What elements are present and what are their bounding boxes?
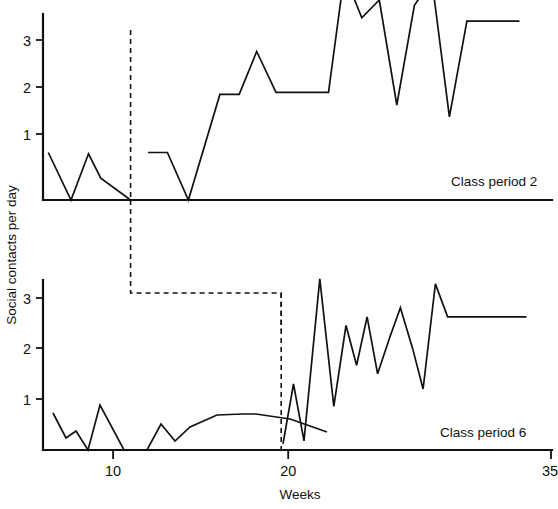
bottom-ytick-label-1: 1 xyxy=(23,392,31,408)
chart-svg: Social contacts per day 3 2 1 Class peri… xyxy=(0,0,558,509)
bottom-ytick-label-3: 3 xyxy=(23,291,31,307)
bottom-intervention-series xyxy=(283,279,527,444)
y-axis-title: Social contacts per day xyxy=(4,185,19,325)
bottom-xtick-label-35: 35 xyxy=(542,463,558,479)
top-ytick-label-2: 2 xyxy=(23,80,31,96)
top-baseline-series xyxy=(48,153,130,201)
x-axis-title: Weeks xyxy=(279,487,320,502)
bottom-xtick-label-10: 10 xyxy=(105,463,121,479)
bottom-xtick-label-20: 20 xyxy=(280,463,296,479)
bottom-ytick-label-2: 2 xyxy=(23,341,31,357)
top-intervention-series xyxy=(148,0,519,200)
top-ytick-label-1: 1 xyxy=(23,127,31,143)
panel-top: 3 2 1 Class period 2 xyxy=(23,0,552,200)
figure-container: Social contacts per day 3 2 1 Class peri… xyxy=(0,0,558,509)
phase-change-connector xyxy=(131,200,282,330)
panel-bottom: 3 2 1 10 20 35 Class period 6 xyxy=(23,279,558,479)
bottom-panel-label: Class period 6 xyxy=(440,425,526,440)
top-panel-label: Class period 2 xyxy=(451,174,537,189)
top-ytick-label-3: 3 xyxy=(23,33,31,49)
